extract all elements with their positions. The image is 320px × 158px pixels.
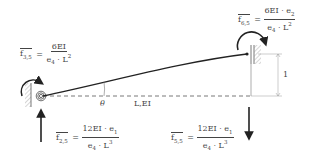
force-label-f55: f5,5 = 12EI · e1 e4 · L3: [171, 124, 234, 153]
deflected-beam: [43, 54, 247, 96]
angle-label: θ: [100, 99, 105, 108]
force-label-f35: f3,5 = 6EI e4 · L2: [20, 42, 72, 67]
left-support: [25, 83, 31, 107]
angle-arc: [104, 82, 105, 96]
right-support: [251, 45, 261, 64]
force-label-f65: f6,5 = 6EI · e2 e4 · L2: [238, 6, 295, 35]
beam-property-label: L,EI: [134, 99, 151, 108]
unit-displacement-label: 1: [283, 70, 288, 79]
force-label-f25: f2,5 = 12EI · e1 e4 · L3: [56, 124, 119, 153]
